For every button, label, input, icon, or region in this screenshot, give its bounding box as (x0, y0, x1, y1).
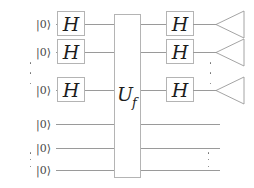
vertical-ellipsis-bottom-right (207, 152, 210, 167)
vertical-ellipsis-top-right (209, 62, 212, 84)
ket-label-top-2: |0⟩ (36, 47, 51, 58)
wire-top-2-seg-mid (85, 52, 115, 53)
ket-label-top-3: |0⟩ (36, 85, 51, 96)
ket-label-bottom-3: |0⟩ (36, 165, 51, 176)
hadamard-gate-top-3-out[interactable]: H (166, 77, 194, 102)
hadamard-gate-top-1-in[interactable]: H (57, 11, 85, 36)
wire-top-1-seg-mid (85, 24, 115, 25)
ket-label-top-1: |0⟩ (36, 19, 51, 30)
wire-bottom-2-seg-out (140, 148, 220, 149)
wire-bottom-3-seg-in (56, 170, 115, 171)
measurement-detector-top-1[interactable] (215, 10, 246, 39)
hadamard-gate-top-2-in[interactable]: H (57, 39, 85, 64)
oracle-gate-uf[interactable]: Uf (114, 14, 141, 178)
quantum-circuit-diagram: |0⟩ H H |0⟩ H H |0⟩ H H |0⟩ (0, 0, 254, 188)
oracle-gate-subscript: f (132, 95, 137, 110)
wire-bottom-1-seg-in (56, 124, 115, 125)
wire-top-1-seg-post-oracle (140, 24, 167, 25)
wire-top-3-seg-post-oracle (140, 90, 167, 91)
measurement-detector-top-2[interactable] (215, 38, 246, 67)
vertical-ellipsis-bottom-left (29, 152, 32, 167)
oracle-gate-label: Uf (117, 85, 138, 108)
wire-top-3-seg-mid (85, 90, 115, 91)
ket-label-bottom-1: |0⟩ (36, 119, 51, 130)
hadamard-gate-top-1-out[interactable]: H (166, 11, 194, 36)
wire-bottom-1-seg-out (140, 124, 220, 125)
hadamard-gate-top-2-out[interactable]: H (166, 39, 194, 64)
hadamard-gate-top-3-in[interactable]: H (57, 77, 85, 102)
oracle-gate-letter: U (117, 83, 133, 105)
ket-label-bottom-2: |0⟩ (36, 143, 51, 154)
wire-top-2-seg-post-oracle (140, 52, 167, 53)
wire-bottom-3-seg-out (140, 170, 220, 171)
measurement-detector-top-3[interactable] (215, 76, 246, 105)
vertical-ellipsis-top-left (29, 62, 32, 84)
wire-bottom-2-seg-in (56, 148, 115, 149)
